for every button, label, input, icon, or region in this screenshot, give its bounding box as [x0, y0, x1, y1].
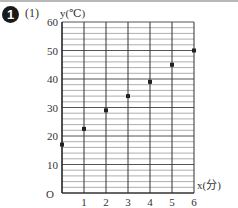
data-point	[60, 143, 64, 147]
y-axis-label: y(℃)	[60, 7, 85, 20]
data-point	[170, 63, 174, 67]
y-tick-label: 50	[47, 45, 59, 57]
data-point	[148, 80, 152, 84]
data-point	[126, 94, 130, 98]
y-tick-label: 60	[47, 16, 59, 28]
x-tick-label: 5	[169, 196, 175, 208]
x-tick-label: 6	[191, 196, 197, 208]
x-axis-label: x(分)	[197, 179, 221, 192]
y-tick-label: 10	[47, 159, 59, 171]
x-tick-label: 1	[81, 196, 87, 208]
scatter-chart: 102030405060123456Oy(℃)x(分)	[0, 0, 238, 208]
y-tick-label: 30	[47, 102, 59, 114]
x-tick-label: 2	[103, 196, 109, 208]
data-point	[82, 127, 86, 131]
x-tick-label: 3	[125, 196, 131, 208]
data-point	[192, 49, 196, 53]
data-point	[104, 108, 108, 112]
x-tick-label: 4	[147, 196, 153, 208]
origin-label: O	[46, 188, 54, 200]
y-tick-label: 20	[47, 130, 59, 142]
y-tick-label: 40	[47, 73, 59, 85]
